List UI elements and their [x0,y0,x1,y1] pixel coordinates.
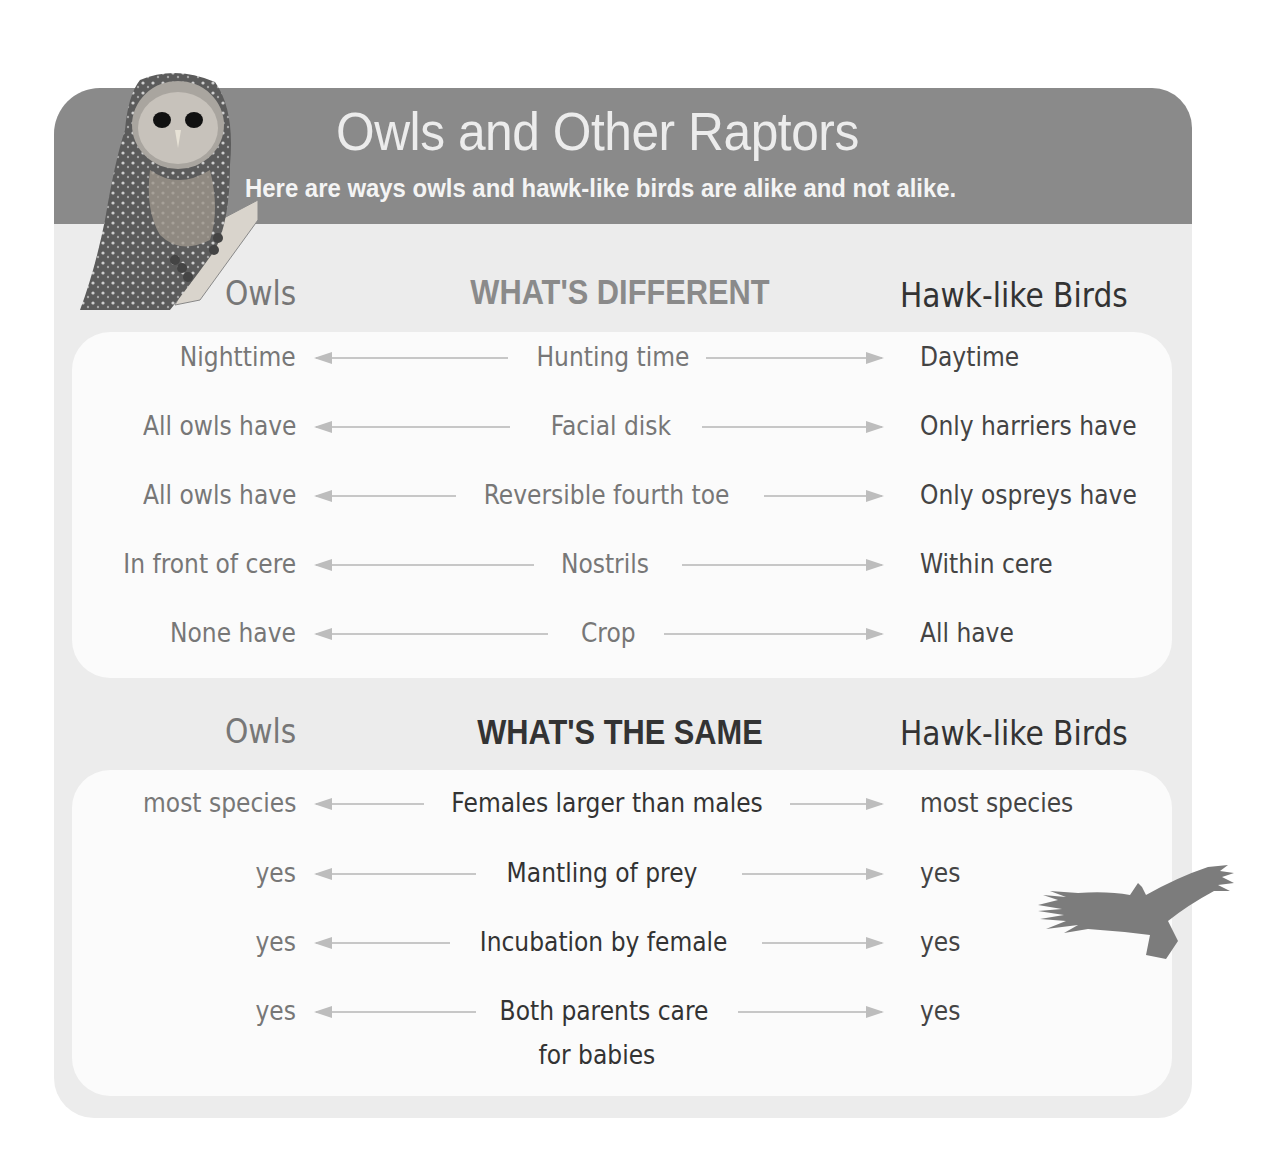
same-section-header: Owls WHAT'S THE SAME Hawk-like Birds [54,710,1192,760]
hawks-column-heading: Hawk-like Birds [900,714,1128,753]
different-row: All owls have Facial disk Only harriers … [72,411,1172,451]
trait-label: Females larger than males [451,788,762,818]
arrow-right-icon [682,564,882,566]
owl-photo-icon [80,70,260,315]
arrow-right-icon [790,803,882,805]
different-row: In front of cere Nostrils Within cere [72,549,1172,589]
owls-value: yes [256,858,296,888]
arrow-right-icon [664,633,882,635]
owls-value: All owls have [143,480,296,510]
hawks-value: Only ospreys have [920,480,1137,510]
trait-label: Both parents care [500,996,709,1026]
page-title: Owls and Other Raptors [336,100,859,162]
owls-value: Nighttime [180,342,296,372]
trait-label-line2: for babies [538,1040,655,1070]
hawks-value: Daytime [920,342,1019,372]
trait-label: Crop [581,618,636,648]
trait-label: Facial disk [551,411,671,441]
different-heading: WHAT'S DIFFERENT [412,272,827,312]
different-row: All owls have Reversible fourth toe Only… [72,480,1172,520]
arrow-left-icon [316,426,510,428]
arrow-right-icon [762,942,882,944]
hawks-column-heading: Hawk-like Birds [900,276,1128,315]
hawks-value: yes [920,927,960,957]
different-row: None have Crop All have [72,618,1172,658]
trait-label: Hunting time [536,342,689,372]
hawks-value: All have [920,618,1014,648]
different-panel: Nighttime Hunting time Daytime All owls … [72,332,1172,678]
page-subtitle: Here are ways owls and hawk-like birds a… [245,173,956,204]
arrow-left-icon [316,564,534,566]
arrow-right-icon [706,357,882,359]
trait-label: Nostrils [561,549,649,579]
arrow-left-icon [316,495,456,497]
same-row: most species Females larger than males m… [72,788,1172,828]
same-row: yes Both parents care for babies yes [72,996,1172,1036]
same-panel: most species Females larger than males m… [72,770,1172,1096]
hawk-silhouette-icon [1038,865,1234,963]
same-heading: WHAT'S THE SAME [412,712,827,752]
trait-label: Mantling of prey [507,858,698,888]
hawks-value: yes [920,996,960,1026]
hawks-value: most species [920,788,1073,818]
owls-value: yes [256,927,296,957]
owls-value: In front of cere [123,549,296,579]
trait-label: Reversible fourth toe [484,480,730,510]
owls-value: All owls have [143,411,296,441]
trait-label: Incubation by female [480,927,728,957]
arrow-left-icon [316,357,508,359]
arrow-right-icon [742,873,882,875]
same-row: yes Incubation by female yes [72,927,1172,967]
arrow-left-icon [316,873,476,875]
owls-value: yes [256,996,296,1026]
owls-value: most species [143,788,296,818]
arrow-right-icon [702,426,882,428]
arrow-right-icon [738,1011,882,1013]
different-row: Nighttime Hunting time Daytime [72,342,1172,382]
hawks-value: Only harriers have [920,411,1137,441]
arrow-left-icon [316,803,424,805]
arrow-left-icon [316,1011,476,1013]
same-row: yes Mantling of prey yes [72,858,1172,898]
arrow-right-icon [764,495,882,497]
owls-column-heading: Owls [225,712,296,751]
arrow-left-icon [316,633,548,635]
owls-value: None have [170,618,296,648]
hawks-value: yes [920,858,960,888]
hawks-value: Within cere [920,549,1053,579]
arrow-left-icon [316,942,450,944]
